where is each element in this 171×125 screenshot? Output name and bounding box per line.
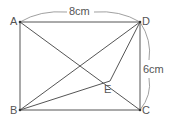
segment-be [20, 81, 110, 110]
dimension-arc-top-right [94, 12, 140, 22]
vertex-a-dot [19, 21, 22, 24]
label-d: D [142, 16, 150, 27]
vertex-d-dot [139, 21, 142, 24]
geometry-diagram: A D B C E 8cm 6cm [0, 0, 171, 125]
label-c: C [142, 105, 150, 116]
dimension-top-label: 8cm [69, 6, 90, 17]
dimension-arc-right-top [140, 22, 150, 60]
vertex-b-dot [19, 109, 22, 112]
label-e: E [104, 84, 111, 95]
vertex-c-dot [139, 109, 142, 112]
dimension-right-label: 6cm [143, 64, 164, 75]
label-b: B [10, 105, 17, 116]
label-a: A [10, 16, 17, 27]
dimension-arc-top-left [20, 12, 67, 22]
segment-de [110, 22, 140, 81]
